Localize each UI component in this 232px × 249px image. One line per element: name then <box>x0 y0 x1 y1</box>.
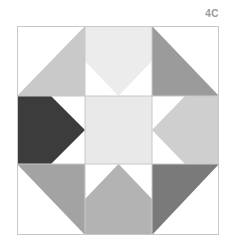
quilt-block-svg <box>17 26 219 235</box>
cell-top-center <box>85 26 152 96</box>
cell-bottom-center <box>85 164 152 235</box>
cell-top-right <box>152 26 219 96</box>
cell-middle-right <box>152 96 219 164</box>
cell-top-left <box>17 26 85 96</box>
block-label: 4C <box>205 8 219 19</box>
cell-middle-left <box>17 96 85 164</box>
cell-bottom-right <box>152 164 219 235</box>
cell-center <box>85 96 152 164</box>
cell-bottom-left <box>17 164 85 235</box>
quilt-block <box>17 26 219 235</box>
